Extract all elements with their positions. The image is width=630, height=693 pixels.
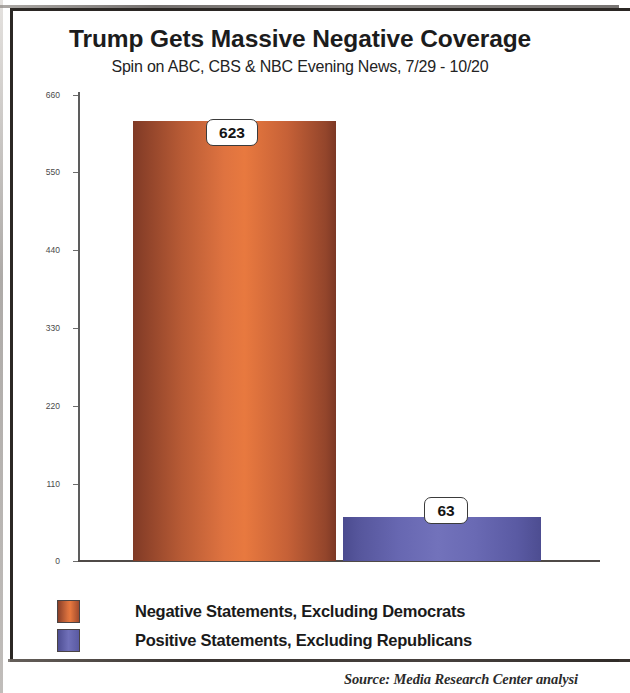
data-label-negative: 623 [206,119,258,146]
legend-item-negative: Negative Statements, Excluding Democrats [57,597,472,626]
scan-artifact-left-edge [0,0,3,693]
legend-swatch-positive-icon [57,629,80,652]
chart-title: Trump Gets Massive Negative Coverage [10,25,590,53]
chart-legend: Negative Statements, Excluding Democrats… [57,597,472,655]
legend-swatch-negative-icon [57,600,80,623]
legend-label-positive: Positive Statements, Excluding Republica… [135,631,472,650]
source-note: Source: Media Research Center analysi [344,671,578,688]
scan-artifact-bottom-edge [8,659,619,662]
scan-artifact-top-edge [0,5,619,8]
legend-item-positive: Positive Statements, Excluding Republica… [57,626,472,655]
chart-subtitle: Spin on ABC, CBS & NBC Evening News, 7/2… [10,58,590,76]
chart-frame [10,8,630,662]
data-label-positive: 63 [424,497,468,524]
legend-label-negative: Negative Statements, Excluding Democrats [135,602,465,621]
